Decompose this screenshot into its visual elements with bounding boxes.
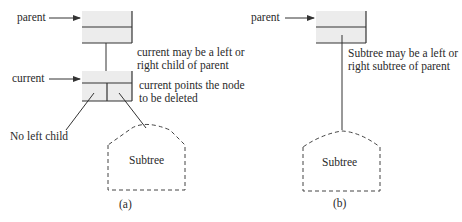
current-note-line2: right child of parent (137, 59, 229, 72)
delete-note-line1: current points the node (139, 79, 245, 92)
subtree-note-line1: Subtree may be a left or (348, 47, 458, 60)
no-left-child-label: No left child (10, 130, 68, 143)
parent-node-a (82, 11, 132, 43)
parent-node-b (316, 11, 366, 43)
subtree-label-a: Subtree (129, 154, 164, 167)
diagram-canvas (0, 0, 462, 222)
caption-a: (a) (119, 198, 132, 211)
parent-label-b: parent (251, 11, 280, 24)
current-note-line1: current may be a left or (137, 46, 245, 59)
caption-b: (b) (333, 197, 346, 210)
no-left-child-pointer (66, 93, 94, 130)
current-node (82, 71, 132, 101)
delete-note-line2: to be deleted (139, 92, 198, 105)
subtree-label-b: Subtree (322, 156, 357, 169)
parent-label-a: parent (17, 11, 46, 24)
subtree-note-line2: right subtree of parent (348, 60, 450, 73)
current-label: current (12, 72, 45, 85)
